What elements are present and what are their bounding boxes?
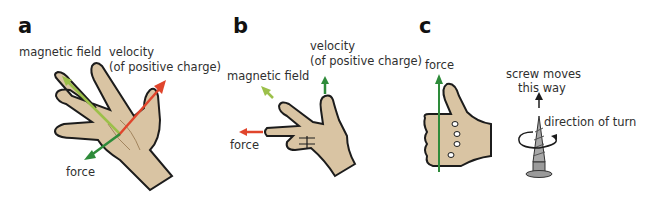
velocity-arrowhead-icon <box>321 76 329 84</box>
hand-shape <box>265 96 355 177</box>
label-velocity-qualifier: (of positive charge) <box>109 60 221 74</box>
open-hand-illustration <box>0 0 215 199</box>
force-arrowhead-icon <box>239 128 247 136</box>
panel-c: c force screw moves this way direction o… <box>415 0 645 199</box>
force-arrowhead-icon <box>435 74 443 84</box>
panel-b: b velocity (of positive charge) magnetic… <box>215 0 415 199</box>
panel-a: a magnetic field velocity (of positive c… <box>0 0 215 199</box>
label-force: force <box>425 58 454 72</box>
label-force: force <box>230 138 259 152</box>
label-velocity: velocity <box>310 39 355 53</box>
pointing-hand-illustration <box>215 0 415 199</box>
label-velocity: velocity <box>109 45 154 59</box>
rotation-arrowhead-icon <box>551 134 557 140</box>
label-this-way: this way <box>518 81 566 95</box>
label-velocity-qualifier: (of positive charge) <box>310 54 422 68</box>
label-magnetic-field: magnetic field <box>227 69 309 83</box>
thumb-rule-and-screw-illustration <box>415 0 645 199</box>
label-force: force <box>66 165 95 179</box>
label-magnetic-field: magnetic field <box>19 45 101 59</box>
label-screw-moves: screw moves <box>506 67 581 81</box>
screw-head <box>526 171 552 178</box>
label-direction-of-turn: direction of turn <box>544 115 636 129</box>
